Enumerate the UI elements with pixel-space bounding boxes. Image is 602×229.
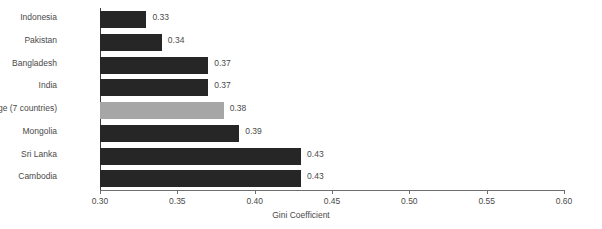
bar-row: Bangladesh0.37 [100,54,564,77]
plot-area: Indonesia0.33Pakistan0.34Bangladesh0.37I… [100,8,564,190]
bar-row: Mongolia0.39 [100,122,564,145]
bar [100,34,162,51]
bar-row: India0.37 [100,76,564,99]
bar-category-label: Cambodia [0,171,57,182]
bar-category-label: Bangladesh [0,58,57,69]
chart-figure: Indonesia0.33Pakistan0.34Bangladesh0.37I… [0,0,602,229]
bar-value-label: 0.39 [239,126,262,137]
bar-value-label: 0.37 [208,58,231,69]
x-axis-tick-label: 0.40 [235,196,275,207]
x-axis-tick-label: 0.55 [467,196,507,207]
x-axis-tick [100,190,101,194]
x-axis-tick [487,190,488,194]
x-axis-tick [332,190,333,194]
bar-row: Indonesia0.33 [100,8,564,31]
bar-category-label: India [0,80,57,91]
bar-category-label: Indonesia [0,12,57,23]
bar-category-label: Average (7 countries) [0,103,57,114]
bar-value-label: 0.33 [146,12,169,23]
bar [100,79,208,96]
x-axis-tick [564,190,565,194]
bar-row: Sri Lanka0.43 [100,145,564,168]
x-axis-tick-label: 0.35 [157,196,197,207]
x-axis-tick [177,190,178,194]
bar-row: Average (7 countries)0.38 [100,99,564,122]
x-axis-tick-label: 0.30 [80,196,120,207]
x-axis-tick-label: 0.45 [312,196,352,207]
x-axis-tick [255,190,256,194]
bar [100,11,146,28]
bar-category-label: Sri Lanka [0,149,57,160]
x-axis-tick [409,190,410,194]
x-axis-tick-label: 0.50 [389,196,429,207]
bar [100,170,301,187]
bar-value-label: 0.37 [208,80,231,91]
x-axis-tick-label: 0.60 [544,196,584,207]
bar [100,125,239,142]
bar [100,57,208,74]
bar-value-label: 0.38 [224,103,247,114]
bar-category-label: Mongolia [0,126,57,137]
bar [100,148,301,165]
bar-value-label: 0.34 [162,35,185,46]
bar-category-label: Pakistan [0,35,57,46]
bar [100,102,224,119]
bar-row: Pakistan0.34 [100,31,564,54]
bar-value-label: 0.43 [301,149,324,160]
x-axis-title: Gini Coefficient [0,210,602,221]
bar-value-label: 0.43 [301,171,324,182]
bar-row: Cambodia0.43 [100,167,564,190]
